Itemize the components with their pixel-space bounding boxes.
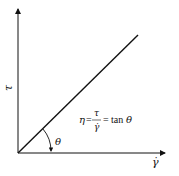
svg-text:=: = <box>103 114 109 125</box>
svg-text:θ: θ <box>126 114 132 125</box>
svg-text:=: = <box>86 114 92 125</box>
angle-label: θ <box>55 136 61 147</box>
viscosity-formula: η = τ γ̇ = tan θ <box>79 108 132 132</box>
y-axis-label: τ <box>2 84 15 91</box>
flow-curve-line <box>18 35 138 153</box>
svg-text:τ: τ <box>94 108 100 118</box>
angle-arc <box>43 129 51 151</box>
svg-text:γ̇: γ̇ <box>94 122 100 132</box>
x-axis-label: γ̇ <box>152 156 159 169</box>
shear-diagram: τ γ̇ θ η = τ γ̇ = tan θ <box>0 0 179 176</box>
svg-text:η: η <box>79 114 85 125</box>
svg-text:tan: tan <box>111 114 123 125</box>
